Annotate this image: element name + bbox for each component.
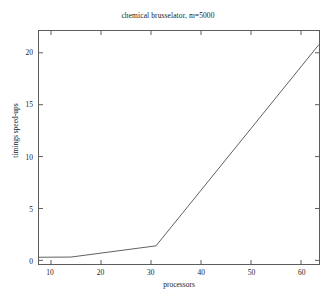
x-axis-tick-labels: 102030405060 xyxy=(38,268,320,280)
plot-area xyxy=(38,30,320,265)
x-tick-label: 20 xyxy=(97,268,105,277)
x-tick-label: 50 xyxy=(248,268,256,277)
y-axis-tick-labels: 05101520 xyxy=(0,30,33,265)
data-line-speed-up xyxy=(39,44,319,257)
y-tick-label: 15 xyxy=(26,100,34,109)
y-axis-ticks xyxy=(39,53,319,261)
y-tick-label: 5 xyxy=(29,204,33,213)
chart-title: chemical brusselator, m=5000 xyxy=(0,11,336,20)
y-tick-label: 10 xyxy=(26,152,34,161)
x-tick-label: 60 xyxy=(298,268,306,277)
x-tick-label: 40 xyxy=(197,268,205,277)
x-tick-label: 10 xyxy=(46,268,54,277)
x-tick-label: 30 xyxy=(147,268,155,277)
y-tick-label: 20 xyxy=(26,47,34,56)
x-axis-ticks xyxy=(51,31,301,264)
data-series-group xyxy=(39,44,319,257)
y-tick-label: 0 xyxy=(29,257,33,266)
x-axis-label: processors xyxy=(38,280,320,289)
plot-svg xyxy=(39,31,319,264)
figure-canvas: chemical brusselator, m=5000 timings spe… xyxy=(0,0,336,295)
